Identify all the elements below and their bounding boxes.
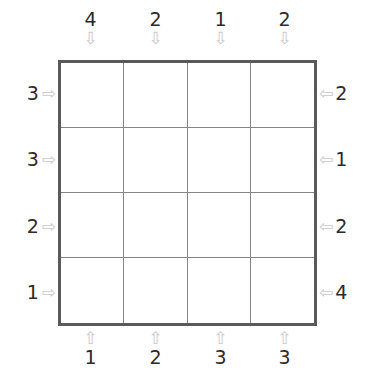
clue-right-row-1: ⇦ 2	[319, 60, 365, 127]
clue-right-row-2: ⇦ 1	[319, 127, 365, 194]
clue-left-value-2: 3	[27, 150, 39, 169]
arrow-up-icon: ⇧	[277, 330, 291, 347]
arrow-right-icon: ⇨	[42, 218, 56, 235]
cell-r2c1[interactable]	[61, 128, 124, 193]
clue-bottom-value-3: 3	[214, 348, 226, 367]
clue-bottom-col-2: ⇧ 2	[123, 330, 188, 376]
arrow-up-icon: ⇧	[83, 330, 97, 347]
cell-r2c2[interactable]	[124, 128, 187, 193]
clue-left-value-3: 2	[27, 217, 39, 236]
arrow-up-icon: ⇧	[148, 330, 162, 347]
cell-r3c1[interactable]	[61, 193, 124, 258]
clue-left-row-1: 3 ⇨	[12, 60, 56, 127]
clue-top-value-3: 1	[214, 10, 226, 29]
cell-r2c3[interactable]	[188, 128, 251, 193]
clue-right-value-3: 2	[335, 217, 347, 236]
clue-left-row-4: 1 ⇨	[12, 260, 56, 327]
clue-top-col-1: 4 ⇩	[58, 10, 123, 56]
clue-bottom-value-4: 3	[278, 348, 290, 367]
arrow-up-icon: ⇧	[213, 330, 227, 347]
clue-top-value-1: 4	[84, 10, 96, 29]
clue-right-value-4: 4	[335, 283, 347, 302]
clue-right-row-3: ⇦ 2	[319, 193, 365, 260]
clue-bottom-value-1: 1	[84, 348, 96, 367]
cell-r4c3[interactable]	[188, 258, 251, 323]
clue-left-value-1: 3	[27, 84, 39, 103]
skyscrapers-puzzle: 4 ⇩ 2 ⇩ 1 ⇩ 2 ⇩ 3 ⇨ 3 ⇨ 2 ⇨ 1 ⇨	[0, 0, 372, 390]
clue-right-value-1: 2	[335, 84, 347, 103]
clue-left-value-4: 1	[27, 283, 39, 302]
arrow-down-icon: ⇩	[277, 30, 291, 47]
clue-bottom-col-4: ⇧ 3	[252, 330, 317, 376]
clue-top-value-4: 2	[278, 10, 290, 29]
clue-right-row-4: ⇦ 4	[319, 260, 365, 327]
cell-r2c4[interactable]	[251, 128, 314, 193]
cell-r1c4[interactable]	[251, 63, 314, 128]
arrow-down-icon: ⇩	[148, 30, 162, 47]
clue-bottom-col-3: ⇧ 3	[188, 330, 253, 376]
arrow-left-icon: ⇦	[319, 151, 333, 168]
arrow-left-icon: ⇦	[319, 85, 333, 102]
puzzle-grid-cells	[61, 63, 314, 323]
arrow-right-icon: ⇨	[42, 151, 56, 168]
arrow-down-icon: ⇩	[213, 30, 227, 47]
clue-top-col-2: 2 ⇩	[123, 10, 188, 56]
clue-top-value-2: 2	[149, 10, 161, 29]
clue-left-row-3: 2 ⇨	[12, 193, 56, 260]
cell-r4c1[interactable]	[61, 258, 124, 323]
clue-top-col-3: 1 ⇩	[188, 10, 253, 56]
clue-top-col-4: 2 ⇩	[252, 10, 317, 56]
arrow-left-icon: ⇦	[319, 218, 333, 235]
clue-bottom-col-1: ⇧ 1	[58, 330, 123, 376]
arrow-right-icon: ⇨	[42, 284, 56, 301]
clue-bottom-value-2: 2	[149, 348, 161, 367]
cell-r1c3[interactable]	[188, 63, 251, 128]
cell-r1c2[interactable]	[124, 63, 187, 128]
clue-right-value-2: 1	[335, 150, 347, 169]
cell-r3c2[interactable]	[124, 193, 187, 258]
arrow-down-icon: ⇩	[83, 30, 97, 47]
arrow-right-icon: ⇨	[42, 85, 56, 102]
cell-r4c2[interactable]	[124, 258, 187, 323]
cell-r1c1[interactable]	[61, 63, 124, 128]
cell-r4c4[interactable]	[251, 258, 314, 323]
cell-r3c3[interactable]	[188, 193, 251, 258]
arrow-left-icon: ⇦	[319, 284, 333, 301]
cell-r3c4[interactable]	[251, 193, 314, 258]
puzzle-grid	[58, 60, 317, 326]
clue-left-row-2: 3 ⇨	[12, 127, 56, 194]
